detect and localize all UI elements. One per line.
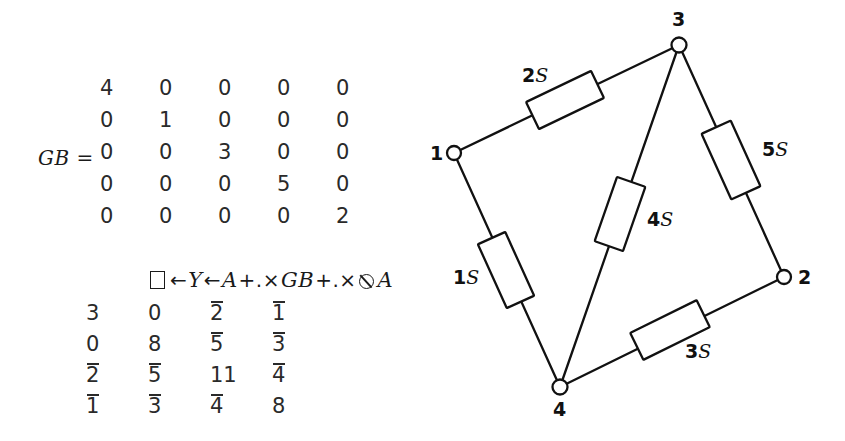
apl-inner-product-2: +.×: [314, 268, 357, 292]
gb-cell: 4: [100, 72, 159, 104]
gb-cell: 0: [100, 200, 159, 232]
resistor-body-4S: [595, 177, 646, 251]
gb-cell: 0: [218, 72, 277, 104]
gb-cell: 0: [277, 72, 336, 104]
node-terminal-3: [672, 38, 687, 53]
y-cell: 2: [86, 360, 148, 391]
gb-cell: 0: [277, 200, 336, 232]
gb-cell: 0: [159, 72, 218, 104]
gb-cell: 0: [159, 200, 218, 232]
y-cell: 2: [210, 298, 272, 329]
apl-assign-arrow-2: ←: [203, 268, 222, 292]
apl-inner-product-1: +.×: [238, 268, 281, 292]
resistor-label-5S: 5S: [762, 138, 788, 160]
gb-matrix-row: 4 0 0 0 0: [100, 72, 395, 104]
y-cell: 1: [86, 391, 148, 422]
resistor-body-1S: [478, 232, 534, 308]
figure-canvas: GB = 4 0 0 0 0 0 1 0 0 0 0 0 3 0 0: [0, 0, 845, 441]
gb-cell: 5: [277, 168, 336, 200]
apl-transpose-icon: [359, 274, 375, 290]
y-cell: 8: [148, 329, 210, 360]
apl-variable-a-right: A: [378, 268, 394, 292]
algebra-panel: GB = 4 0 0 0 0 0 1 0 0 0 0 0 3 0 0: [0, 0, 420, 441]
y-matrix-row: 2 5 11 4: [86, 360, 334, 391]
gb-cell: 0: [336, 136, 395, 168]
circuit-svg: [420, 0, 845, 441]
gb-matrix-row: 0 0 3 0 0: [100, 136, 395, 168]
gb-matrix-label: GB =: [38, 146, 94, 170]
gb-matrix: 4 0 0 0 0 0 1 0 0 0 0 0 3 0 0 0: [100, 72, 395, 232]
gb-cell: 0: [159, 168, 218, 200]
resistor-label-4S: 4S: [647, 208, 673, 230]
gb-cell: 0: [336, 72, 395, 104]
apl-variable-y: Y: [188, 268, 202, 292]
gb-cell: 0: [218, 104, 277, 136]
node-label-4: 4: [553, 398, 566, 420]
node-terminal-1: [447, 146, 461, 160]
y-cell: 4: [210, 391, 272, 422]
apl-variable-gb: GB: [281, 268, 314, 292]
resistor-label-1S: 1S: [453, 266, 479, 288]
apl-quad-output-icon: [150, 271, 165, 289]
node-label-2: 2: [798, 266, 811, 288]
y-cell: 4: [272, 360, 334, 391]
gb-cell: 0: [218, 200, 277, 232]
y-matrix-row: 1 3 4 8: [86, 391, 334, 422]
y-result-matrix: 3 0 2 1 0 8 5 3 2 5 11 4 1 3 4 8: [86, 298, 334, 422]
resistor-body-5S: [702, 121, 761, 200]
gb-cell: 0: [218, 168, 277, 200]
gb-cell: 0: [336, 168, 395, 200]
gb-cell: 0: [277, 104, 336, 136]
gb-cell: 0: [336, 104, 395, 136]
y-cell: 0: [148, 298, 210, 329]
node-label-1: 1: [430, 142, 443, 164]
apl-assign-arrow-1: ←: [169, 268, 188, 292]
y-cell: 11: [210, 360, 272, 391]
y-matrix-row: 0 8 5 3: [86, 329, 334, 360]
resistor-label-2S: 2S: [522, 64, 548, 86]
gb-matrix-row: 0 0 0 0 2: [100, 200, 395, 232]
y-cell: 0: [86, 329, 148, 360]
y-cell: 1: [272, 298, 334, 329]
gb-cell: 0: [159, 136, 218, 168]
y-cell: 5: [210, 329, 272, 360]
gb-cell: 1: [159, 104, 218, 136]
gb-cell: 3: [218, 136, 277, 168]
y-cell: 3: [272, 329, 334, 360]
circuit-diagram: 1 2 3 4 2S 5S 4S 1S 3S: [420, 0, 845, 441]
y-matrix-row: 3 0 2 1: [86, 298, 334, 329]
node-label-3: 3: [672, 8, 685, 30]
gb-cell: 0: [100, 104, 159, 136]
gb-cell: 0: [277, 136, 336, 168]
y-cell: 3: [86, 298, 148, 329]
y-cell: 8: [272, 391, 334, 422]
apl-expression-line: ←Y←A+.×GB+.×A: [150, 268, 393, 292]
gb-cell: 0: [100, 136, 159, 168]
gb-cell: 0: [100, 168, 159, 200]
y-cell: 5: [148, 360, 210, 391]
y-cell: 3: [148, 391, 210, 422]
gb-matrix-row: 0 1 0 0 0: [100, 104, 395, 136]
resistor-label-3S: 3S: [685, 340, 711, 362]
node-terminal-4: [553, 380, 568, 395]
gb-matrix-row: 0 0 0 5 0: [100, 168, 395, 200]
gb-cell: 2: [336, 200, 395, 232]
apl-variable-a-left: A: [222, 268, 238, 292]
node-terminal-2: [777, 270, 791, 284]
